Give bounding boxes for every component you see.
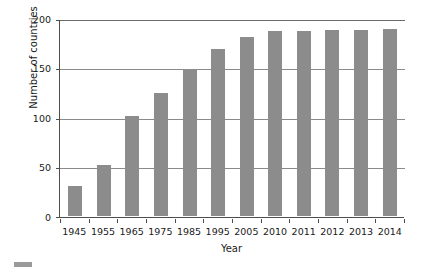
x-tick-mark: [232, 219, 233, 223]
bar-slot-1945: [61, 20, 90, 216]
y-tick-mark-150: [56, 69, 60, 70]
x-axis-tick-labels: 1945 1955 1965 1975 1985 1995 2005 2010 …: [60, 226, 404, 237]
bar-2013[interactable]: [354, 30, 368, 216]
y-tick-label-0: 0: [25, 213, 51, 223]
bar-slot-2005: [232, 20, 261, 216]
bar-slot-1965: [118, 20, 147, 216]
x-axis-tick-marks: [60, 219, 404, 220]
y-tick-mark-100: [56, 119, 60, 120]
bar-1965[interactable]: [125, 116, 139, 216]
y-tick-mark-200: [56, 20, 60, 21]
bar-slot-1985: [175, 20, 204, 216]
x-tick-mark: [404, 219, 405, 223]
bar-2005[interactable]: [240, 37, 254, 216]
y-tick-mark-0: [56, 217, 60, 218]
x-tick-label-2014: 2014: [375, 226, 404, 237]
x-tick-label-1965: 1965: [117, 226, 146, 237]
x-tick-label-2005: 2005: [232, 226, 261, 237]
bar-2012[interactable]: [325, 30, 339, 216]
x-tick-mark: [347, 219, 348, 223]
x-tick-label-2012: 2012: [318, 226, 347, 237]
bar-slot-2012: [318, 20, 347, 216]
bar-2010[interactable]: [268, 31, 282, 216]
legend: [14, 262, 37, 267]
bar-slot-2010: [261, 20, 290, 216]
x-tick-label-1945: 1945: [60, 226, 89, 237]
x-tick-label-2011: 2011: [289, 226, 318, 237]
x-tick-mark: [203, 219, 204, 223]
x-tick-mark: [261, 219, 262, 223]
x-tick-label-1975: 1975: [146, 226, 175, 237]
x-tick-mark: [60, 219, 61, 223]
bar-1975[interactable]: [154, 93, 168, 216]
x-tick-label-1985: 1985: [175, 226, 204, 237]
bar-slot-1975: [147, 20, 176, 216]
bar-1945[interactable]: [68, 186, 82, 216]
bar-chart-figure: 200 150 100 50 0 Number of countries: [0, 0, 427, 274]
y-axis-title: Number of countries: [28, 0, 39, 138]
bar-series: [61, 20, 404, 216]
x-axis-title: Year: [59, 243, 404, 254]
bar-slot-1955: [90, 20, 119, 216]
x-tick-mark: [117, 219, 118, 223]
x-tick-mark: [89, 219, 90, 223]
bar-slot-2011: [290, 20, 319, 216]
x-tick-label-2013: 2013: [347, 226, 376, 237]
x-tick-mark: [318, 219, 319, 223]
x-tick-label-2010: 2010: [261, 226, 290, 237]
x-tick-mark: [175, 219, 176, 223]
bar-slot-1995: [204, 20, 233, 216]
plot-area: [59, 20, 404, 218]
x-tick-label-1995: 1995: [203, 226, 232, 237]
x-tick-mark: [289, 219, 290, 223]
y-tick-label-50: 50: [25, 163, 51, 173]
bar-slot-2013: [347, 20, 376, 216]
bar-1985[interactable]: [183, 69, 197, 217]
x-tick-mark: [375, 219, 376, 223]
x-tick-label-1955: 1955: [89, 226, 118, 237]
bar-slot-2014: [375, 20, 404, 216]
bar-2011[interactable]: [297, 31, 311, 216]
legend-swatch: [14, 262, 32, 267]
bar-1995[interactable]: [211, 49, 225, 216]
bar-1955[interactable]: [97, 165, 111, 216]
bar-2014[interactable]: [383, 29, 397, 216]
x-tick-mark: [146, 219, 147, 223]
y-tick-mark-50: [56, 168, 60, 169]
